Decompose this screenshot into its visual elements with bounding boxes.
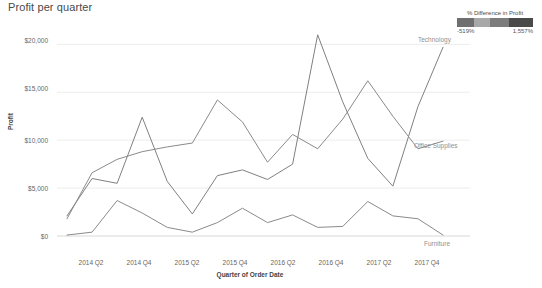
legend-min-label: -519% bbox=[457, 28, 474, 34]
y-tick-3: $15,000 bbox=[4, 85, 48, 92]
legend-color-gradient bbox=[457, 18, 533, 27]
plot-area bbox=[0, 0, 542, 288]
x-tick-7: 2017 Q4 bbox=[405, 259, 449, 266]
y-axis-title: Profit bbox=[7, 102, 14, 142]
legend-title: % Difference in Profit bbox=[452, 10, 538, 16]
legend-labels: -519% 1,557% bbox=[457, 28, 533, 34]
series-lines bbox=[67, 35, 443, 235]
x-tick-5: 2016 Q4 bbox=[309, 259, 353, 266]
legend-max-label: 1,557% bbox=[513, 28, 533, 34]
series-line-furniture bbox=[67, 201, 443, 235]
series-line-office-supplies bbox=[67, 81, 443, 219]
series-line-technology bbox=[67, 35, 443, 216]
x-tick-0: 2014 Q2 bbox=[69, 259, 113, 266]
series-label-office-supplies: Office Supplies bbox=[414, 142, 458, 149]
x-tick-1: 2014 Q4 bbox=[117, 259, 161, 266]
y-tick-4: $20,000 bbox=[4, 37, 48, 44]
legend: % Difference in Profit -519% 1,557% bbox=[452, 10, 538, 34]
x-axis-title: Quarter of Order Date bbox=[180, 271, 320, 278]
x-tick-6: 2017 Q2 bbox=[357, 259, 401, 266]
gridlines bbox=[57, 44, 470, 236]
page-title: Profit per quarter bbox=[8, 1, 92, 13]
y-tick-1: $5,000 bbox=[4, 185, 48, 192]
y-tick-2: $10,000 bbox=[4, 137, 48, 144]
x-tick-3: 2015 Q4 bbox=[213, 259, 257, 266]
x-tick-2: 2015 Q2 bbox=[165, 259, 209, 266]
x-tick-4: 2016 Q2 bbox=[261, 259, 305, 266]
series-label-furniture: Furniture bbox=[424, 240, 450, 247]
chart-container: Profit per quarter % Difference in Profi… bbox=[0, 0, 542, 288]
y-tick-0: $0 bbox=[4, 233, 48, 240]
series-label-technology: Technology bbox=[418, 36, 451, 43]
